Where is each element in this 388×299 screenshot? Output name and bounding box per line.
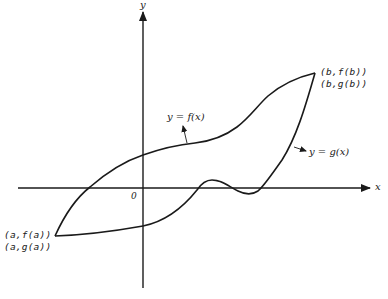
origin-label: 0	[131, 191, 137, 202]
curve-g	[55, 73, 315, 236]
curve-f-label: y = f(x)	[167, 111, 205, 122]
curve-g-label: y = g(x)	[309, 146, 349, 157]
f-label-pointer	[183, 126, 187, 143]
curve-f	[55, 73, 315, 236]
point-b-g-label: (b,g(b))	[320, 78, 367, 89]
point-a-f-label: (a,f(a))	[4, 229, 51, 240]
x-axis-label: x	[375, 181, 381, 192]
g-label-pointer	[294, 147, 306, 151]
point-a-g-label: (a,g(a))	[4, 241, 51, 252]
diagram: y x 0 y = f(x) y = g(x) (a,f(a)) (a,g(a)…	[0, 0, 388, 299]
point-b-f-label: (b,f(b))	[320, 66, 367, 77]
y-axis-label: y	[140, 0, 146, 10]
